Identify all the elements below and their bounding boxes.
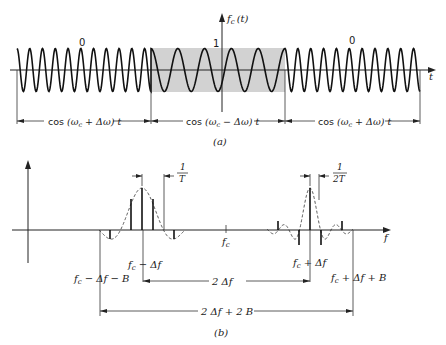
fsk-diagram: 0 1 0 fc(t) t cos(ωc + Δω) t cos(ωc − Δω… (0, 0, 446, 345)
frequency-axis-label: f (383, 232, 390, 243)
segment-label-1: cos(ωc + Δω) t (48, 116, 121, 129)
caption-a: (a) (213, 136, 227, 147)
bit-label-right: 0 (349, 35, 355, 46)
svg-text:1: 1 (337, 162, 343, 172)
panel-b: f fc 1 T 1 (12, 160, 391, 338)
right-edge-label: fc + Δf + B (330, 272, 386, 285)
fc-label: fc (221, 236, 230, 249)
left-center-label: fc − Δf (127, 259, 164, 272)
svg-text:1: 1 (180, 162, 186, 172)
spacing-marker-right: 1 2T (300, 162, 347, 200)
panel-a: 0 1 0 fc(t) t cos(ωc + Δω) t cos(ωc − Δω… (10, 13, 436, 147)
caption-b: (b) (214, 327, 228, 338)
y-axis-label: fc(t) (226, 13, 249, 26)
spectrum-axis-arrow-icon (25, 160, 31, 169)
spacing-marker-left: 1 T (132, 162, 188, 230)
dimension-2df: 2 Δf (143, 276, 310, 287)
segment-label-2: cos(ωc − Δω) t (186, 116, 259, 129)
dimension-2df-2b: 2 Δf + 2 B (100, 306, 353, 317)
segment-label-3: cos(ωc + Δω) t (318, 116, 391, 129)
left-edge-label: fc − Δf − B (73, 273, 129, 286)
svg-text:2T: 2T (332, 174, 346, 184)
amplitude-axis-arrow-icon (219, 13, 225, 22)
bit-label-left: 0 (79, 37, 85, 48)
bit-label-middle: 1 (213, 38, 219, 49)
svg-text:2 Δf + 2 B: 2 Δf + 2 B (200, 306, 253, 317)
svg-text:T: T (179, 174, 186, 184)
svg-text:2 Δf: 2 Δf (211, 276, 235, 287)
x-axis-label-t: t (429, 71, 434, 82)
